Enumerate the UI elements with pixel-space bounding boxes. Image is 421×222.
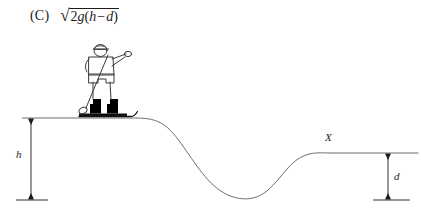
- depth-label-d: d: [394, 170, 400, 182]
- boot-right-icon: [107, 99, 118, 114]
- torso: [89, 57, 114, 75]
- leg-right: [110, 82, 111, 99]
- height-label-h: h: [16, 148, 22, 160]
- skier-figure: [0, 0, 421, 222]
- left-arm: [85, 59, 89, 72]
- cap-icon: [94, 46, 107, 49]
- ski-binding: [79, 114, 127, 117]
- point-label-x: X: [325, 131, 332, 143]
- figure-canvas: (C) √ 2g(h−d): [0, 0, 421, 222]
- boot-left-icon: [90, 99, 101, 114]
